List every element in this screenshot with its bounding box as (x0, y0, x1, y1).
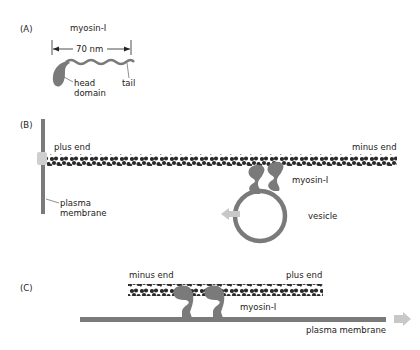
vesicle-circle (235, 191, 285, 241)
myosin-label-c: myosin-I (240, 302, 276, 312)
plus-end-label-c: plus end (286, 270, 322, 280)
myosin-label-b: myosin-I (292, 175, 328, 185)
actin-filament-c (128, 284, 323, 296)
plasma-membrane-label-c: plasma membrane (306, 325, 386, 335)
length-label: 70 nm (76, 44, 103, 54)
panel-a-letter: (A) (20, 24, 32, 34)
membrane-leader-line (46, 199, 59, 203)
plus-end-cap (37, 152, 47, 165)
membrane-label-b: membrane (60, 208, 107, 218)
domain-label: domain (74, 88, 106, 98)
panel-c-letter: (C) (20, 283, 33, 293)
actin-filament-b (47, 154, 397, 166)
motion-arrow-right (394, 312, 411, 326)
plasma-membrane-vertical (41, 119, 45, 214)
plasma-membrane-horizontal (80, 317, 386, 322)
panel-b-letter: (B) (20, 120, 32, 130)
myosin-heads-b (249, 162, 284, 194)
diagram-canvas (0, 0, 420, 350)
head-leader-line (64, 77, 73, 82)
plasma-label-b: plasma (60, 198, 91, 208)
panel-a-title: myosin-I (70, 23, 106, 33)
minus-end-label-c: minus end (129, 270, 174, 280)
tail-coil (66, 60, 134, 64)
tail-leader-line (127, 63, 129, 78)
head-domain-shape (53, 61, 70, 87)
minus-end-label-b: minus end (352, 142, 397, 152)
plus-end-label-b: plus end (54, 142, 90, 152)
tail-label: tail (122, 78, 135, 88)
vesicle-label: vesicle (308, 211, 337, 221)
head-label: head (74, 78, 95, 88)
